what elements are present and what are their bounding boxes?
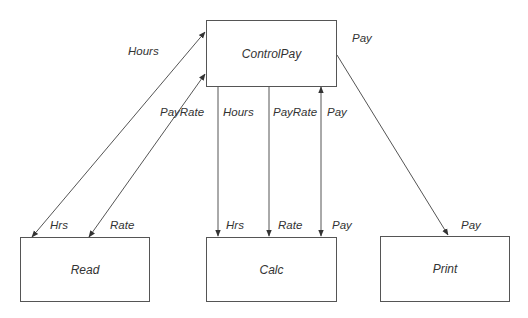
flow-label-hours: Hours: [128, 45, 159, 57]
flow-label-payrate-calc: PayRate: [273, 106, 317, 118]
hours-connector: [32, 32, 205, 237]
flow-label-rate-calc: Rate: [278, 219, 302, 231]
module-calc[interactable]: Calc: [206, 237, 337, 302]
module-read[interactable]: Read: [20, 237, 150, 302]
module-controlpay-label: ControlPay: [242, 47, 301, 61]
module-print-label: Print: [433, 262, 458, 276]
flow-label-hours-calc: Hours: [223, 106, 254, 118]
flow-label-payrate: PayRate: [160, 106, 204, 118]
pay-print-connector: [337, 55, 448, 235]
flow-label-pay-calc: Pay: [327, 106, 347, 118]
module-print[interactable]: Print: [380, 236, 510, 302]
flow-label-pay-calc-bottom: Pay: [332, 219, 352, 231]
module-controlpay[interactable]: ControlPay: [206, 20, 337, 87]
flow-label-pay-print-top: Pay: [352, 32, 372, 44]
flow-label-hrs-read: Hrs: [50, 219, 68, 231]
module-read-label: Read: [71, 263, 100, 277]
payrate-connector: [89, 74, 205, 237]
flow-label-pay-print: Pay: [461, 219, 481, 231]
flow-label-rate-read: Rate: [110, 219, 134, 231]
module-calc-label: Calc: [259, 263, 283, 277]
flow-label-hrs-calc: Hrs: [226, 219, 244, 231]
